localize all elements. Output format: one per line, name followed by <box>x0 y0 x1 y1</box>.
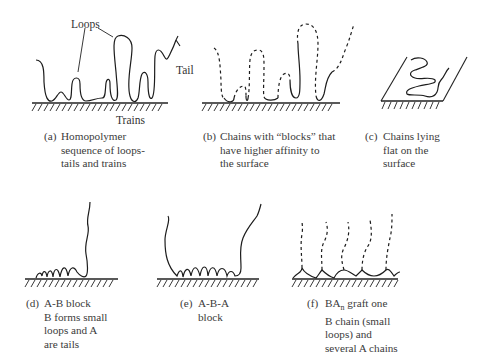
caption-line-rich: BAn graft one <box>325 297 398 315</box>
panel-c-drawing <box>365 0 487 140</box>
caption-line: surface <box>383 157 440 171</box>
caption-line: are tails <box>44 338 107 352</box>
panel-d-drawing <box>0 190 145 300</box>
caption-line: B chain (small <box>325 315 398 329</box>
caption-line: A-B-A <box>198 297 229 311</box>
caption-tag: (e) <box>180 297 192 311</box>
ab-block-chain <box>36 202 90 278</box>
aba-block-chain <box>165 204 261 277</box>
caption-line: tails and trains <box>61 157 145 171</box>
caption-line: A-B block <box>44 297 107 311</box>
homopolymer-chain <box>36 36 176 102</box>
label-trains: Trains <box>116 114 145 126</box>
panel-e: (e) A-B-A block <box>145 190 295 363</box>
panel-c: (c) Chains lying flat on the surface <box>365 0 487 190</box>
panel-d: (d) A-B block B forms small loops and A … <box>0 190 145 363</box>
panel-f: (f) BAn graft one B chain (small loops) … <box>290 190 487 363</box>
label-loops: Loops <box>71 18 100 30</box>
caption-line: sequence of loops- <box>61 144 145 158</box>
panel-e-drawing <box>145 190 295 300</box>
caption-text: graft one <box>345 297 388 309</box>
caption-tag: (d) <box>26 297 39 311</box>
caption-line: block <box>198 311 229 325</box>
caption-line: B forms small <box>44 311 107 325</box>
panel-f-drawing <box>290 190 487 300</box>
b-backbone-chain <box>293 268 400 278</box>
caption-line: the surface <box>220 157 335 171</box>
caption-line: Chains lying <box>383 130 440 144</box>
caption-line: Homopolymer <box>61 130 145 144</box>
caption-line: Chains with “blocks” that <box>220 130 335 144</box>
caption-line: loops and A <box>44 324 107 338</box>
panel-a: Loops Tail Trains (a) Homopolymer sequen… <box>0 0 190 190</box>
caption-line: loops) and <box>325 328 398 342</box>
caption-line: have higher affinity to <box>220 144 335 158</box>
caption-line: several A chains <box>325 342 398 356</box>
caption-tag: (c) <box>365 130 377 144</box>
caption-tag: (f) <box>307 297 318 311</box>
caption-text: BA <box>325 297 341 309</box>
caption-line: flat on the <box>383 144 440 158</box>
flat-chain <box>407 58 449 97</box>
caption-tag: (a) <box>44 130 56 144</box>
panel-b-drawing <box>190 0 365 140</box>
panel-b: (b) Chains with “blocks” that have highe… <box>190 0 365 190</box>
caption-tag: (b) <box>203 130 216 144</box>
